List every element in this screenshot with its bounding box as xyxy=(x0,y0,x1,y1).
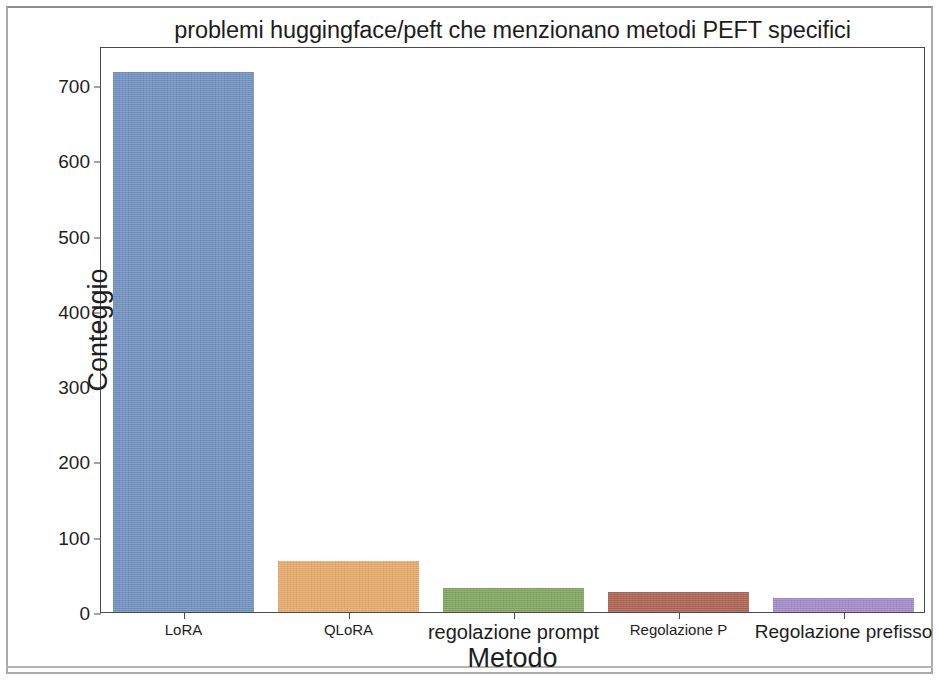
x-tick-label: Regolazione prefisso xyxy=(755,621,932,643)
bar-scan-texture xyxy=(608,592,749,612)
bar-scan-texture xyxy=(773,598,914,612)
x-tick-mark xyxy=(184,612,185,619)
matplotlib-figure: problemi huggingface/peft che menzionano… xyxy=(0,0,939,680)
x-tick-label: LoRA xyxy=(165,621,203,638)
bar-scan-texture xyxy=(113,72,254,612)
y-tick-label: 500 xyxy=(30,227,101,249)
bar-regolazione-prefisso xyxy=(773,598,914,612)
y-tick-label: 0 xyxy=(30,603,101,625)
x-tick-mark xyxy=(514,612,515,619)
y-tick-label: 600 xyxy=(30,151,101,173)
bar-qlora xyxy=(278,561,419,612)
x-tick-mark xyxy=(679,612,680,619)
y-tick-label: 300 xyxy=(30,377,101,399)
bar-scan-texture xyxy=(443,588,584,612)
chart-title: problemi huggingface/peft che menzionano… xyxy=(100,16,925,44)
plot-axes: Conteggio 0100200300400500600700 LoRAQLo… xyxy=(100,47,925,613)
bars-layer xyxy=(101,48,924,612)
x-tick-label: QLoRA xyxy=(324,621,373,638)
bar-regolazione-p xyxy=(608,592,749,612)
x-tick-label: regolazione prompt xyxy=(428,621,599,644)
bar-regolazione-prompt xyxy=(443,588,584,612)
y-tick-label: 200 xyxy=(30,452,101,474)
x-tick-label: Regolazione P xyxy=(630,621,728,638)
x-tick-mark xyxy=(349,612,350,619)
bar-lora xyxy=(113,72,254,612)
y-tick-label: 100 xyxy=(30,528,101,550)
x-tick-mark xyxy=(844,612,845,619)
y-tick-label: 400 xyxy=(30,302,101,324)
screenshot-root: problemi huggingface/peft che menzionano… xyxy=(0,0,939,680)
bar-scan-texture xyxy=(278,561,419,612)
y-tick-label: 700 xyxy=(30,76,101,98)
x-axis-label: Metodo xyxy=(100,643,925,674)
